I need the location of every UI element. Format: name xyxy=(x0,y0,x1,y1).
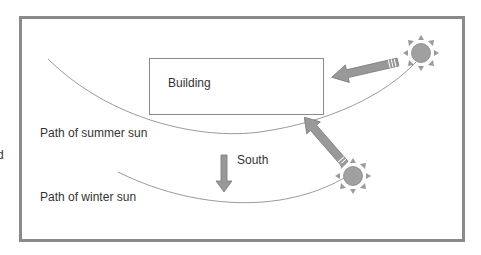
summer-path-label: Path of summer sun xyxy=(40,126,147,140)
solar-orientation-diagram: d Building Path of summer sun Path of wi… xyxy=(0,0,481,255)
south-label: South xyxy=(237,153,268,167)
summer-ray-arrow-icon xyxy=(330,53,400,86)
winter-path-label: Path of winter sun xyxy=(40,190,136,204)
winter-sun-path xyxy=(118,172,344,203)
summer-sun-icon xyxy=(403,35,439,71)
building-label: Building xyxy=(168,76,211,90)
edge-text-fragment: d xyxy=(0,148,4,162)
winter-sun-icon xyxy=(335,158,371,194)
winter-ray-arrow-icon xyxy=(298,111,352,170)
south-arrow-icon xyxy=(216,155,232,192)
